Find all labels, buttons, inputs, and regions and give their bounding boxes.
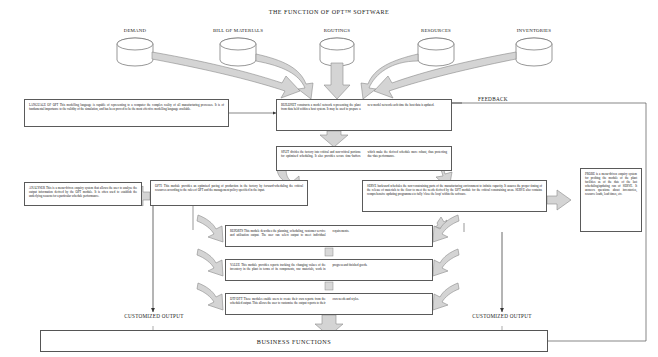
arrow-opt1-to-value [197,249,223,276]
cylinder-demand [117,38,153,66]
cylinder-inventories [516,38,552,66]
arrow-serve-to-value [433,249,459,276]
module-opt1[interactable]: OPT1 This module provides an optimised p… [150,180,308,206]
arrow-opt1-to-reports [197,215,223,242]
module-dtf-dtt-text: DTF/DTT These modules enable users to cr… [230,297,428,305]
arrow-routings-to-buildnet [324,63,350,99]
cylinder-resources [418,38,454,66]
arrow-serve-to-dtf [433,283,459,310]
cylinder-label-inventories: INVENTORIES [503,28,565,33]
module-value-text: VALUE This module provides reports track… [230,263,428,271]
module-probe[interactable]: PROBE is a menu-driven enquiry system fo… [580,168,642,232]
module-serve-text: SERVE backward schedules the non-constra… [367,184,542,196]
module-value[interactable]: VALUE This module provides reports track… [225,259,433,281]
module-buildnet[interactable]: BUILDNET constructs a model network repr… [276,99,452,131]
arrow-opt1-to-dtf [197,283,223,310]
arrow-serve-to-reports [433,215,459,242]
module-serve[interactable]: SERVE backward schedules the non-constra… [362,180,547,212]
feedback-label: FEEDBACK [478,96,508,102]
arrow-resources-to-buildnet [361,54,418,99]
cylinder-label-bill-of-materials: BILL OF MATERIALS [200,28,276,33]
module-opt1-text: OPT1 This module provides an optimised p… [155,184,303,192]
module-language-of-opt[interactable]: LANGUAGE OF OPT This modelling language … [24,99,229,127]
arrow-buildnet-to-split [320,131,348,147]
business-functions-label: BUSINESS FUNCTIONS [257,338,332,345]
module-split-text: SPLIT divides the factory into critical … [281,150,447,158]
connector-value-to-dtf [325,282,333,290]
page-title: THE FUNCTION OF OPT™ SOFTWARE [0,9,658,15]
module-analyser[interactable]: ANALYSER This is a menu-driven enquiry s… [24,182,142,206]
module-split[interactable]: SPLIT divides the factory into critical … [276,146,452,171]
cylinder-bill-of-materials [220,38,256,66]
cylinder-label-demand: DEMAND [108,28,162,33]
cylinder-routings [320,38,354,66]
business-functions-box[interactable]: BUSINESS FUNCTIONS [40,330,548,352]
module-dtf-dtt[interactable]: DTF/DTT These modules enable users to cr… [225,293,433,315]
module-reports[interactable]: REPORTS This module describes the planni… [225,225,433,247]
arrow-inventories-to-buildnet [374,52,516,98]
customized-output-right-label: CUSTOMIZED OUTPUT [448,313,556,319]
cylinder-label-resources: RESOURCES [407,28,465,33]
diagram-canvas: THE FUNCTION OF OPT™ SOFTWARE [0,0,658,357]
cylinder-label-routings: ROUTINGS [310,28,364,33]
module-probe-text: PROBE is a menu-driven enquiry system fo… [585,172,637,196]
module-buildnet-text: BUILDNET constructs a model network repr… [281,103,447,111]
arrow-bom-to-buildnet [256,54,313,99]
connector-reports-to-value [325,248,333,256]
module-language-of-opt-text: LANGUAGE OF OPT This modelling language … [29,103,224,111]
arrow-serve-to-probe [547,190,571,210]
module-reports-text: REPORTS This module describes the planni… [230,229,428,237]
arrow-demand-to-buildnet [152,52,300,98]
module-analyser-text: ANALYSER This is a menu-driven enquiry s… [29,186,137,198]
customized-output-left-label: CUSTOMIZED OUTPUT [100,313,208,319]
arrow-serve-to-opt1-loop [435,217,447,229]
